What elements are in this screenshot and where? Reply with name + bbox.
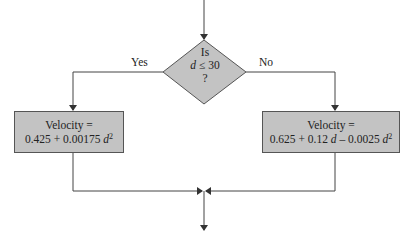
- no-label: No: [259, 56, 273, 68]
- no-branch-line: [246, 72, 335, 110]
- yes-velocity-box: Velocity = 0.425 + 0.00175 d2: [14, 111, 124, 153]
- decision-line2: d ≤ 30: [164, 59, 246, 72]
- decision-line1: Is: [164, 46, 246, 59]
- no-velocity-box: Velocity = 0.625 + 0.12 d – 0.0025 d2: [262, 111, 400, 153]
- yes-label: Yes: [131, 56, 148, 68]
- decision-text: Is d ≤ 30 ?: [164, 46, 246, 85]
- no-merge-line: [206, 153, 335, 191]
- decision-line3: ?: [164, 72, 246, 85]
- no-box-formula: 0.625 + 0.12 d – 0.0025 d2: [270, 132, 393, 146]
- yes-box-title: Velocity =: [45, 118, 93, 132]
- yes-merge-line: [73, 153, 202, 191]
- yes-branch-line: [73, 72, 163, 110]
- yes-box-formula: 0.425 + 0.00175 d2: [25, 132, 113, 146]
- no-box-title: Velocity =: [307, 118, 355, 132]
